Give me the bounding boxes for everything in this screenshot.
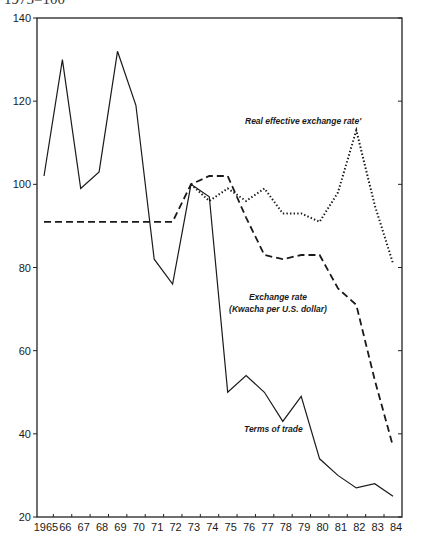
x-tick-label: 1965 bbox=[34, 521, 58, 533]
x-tick-label: 81 bbox=[335, 521, 347, 533]
x-tick-label: 74 bbox=[206, 521, 218, 533]
chart: 1975=100 20406080100120140 1965666768697… bbox=[0, 0, 421, 542]
x-tick-label: 80 bbox=[316, 521, 328, 533]
x-tick-label: 77 bbox=[261, 521, 273, 533]
x-tick-label: 82 bbox=[353, 521, 365, 533]
x-tick-label: 73 bbox=[188, 521, 200, 533]
x-tick-label: 83 bbox=[372, 521, 384, 533]
y-tick-label: 60 bbox=[19, 345, 31, 357]
annotation-label: Real effective exchange rate' bbox=[245, 116, 362, 126]
chart-caption: 1975=100 bbox=[4, 0, 65, 8]
plot-border bbox=[37, 18, 402, 517]
exchange-rate-kwacha-per-u-s-dollar-line bbox=[44, 176, 393, 446]
annotation-label: Terms of trade bbox=[244, 424, 303, 434]
plot-frame bbox=[37, 18, 402, 517]
y-tick-label: 140 bbox=[13, 12, 31, 24]
x-tick-label: 69 bbox=[114, 521, 126, 533]
y-tick-label: 80 bbox=[19, 262, 31, 274]
x-tick-label: 66 bbox=[59, 521, 71, 533]
real-effective-exchange-rate-line bbox=[191, 130, 393, 263]
x-tick-label: 78 bbox=[280, 521, 292, 533]
x-tick-label: 71 bbox=[151, 521, 163, 533]
x-tick-label: 70 bbox=[133, 521, 145, 533]
annotation-label: Exchange rate bbox=[249, 292, 307, 302]
y-tick-label: 20 bbox=[19, 511, 31, 523]
line-chart: 20406080100120140 1965666768697071727374… bbox=[0, 0, 421, 542]
y-tick-label: 120 bbox=[13, 95, 31, 107]
x-tick-label: 84 bbox=[390, 521, 402, 533]
x-tick-label: 68 bbox=[96, 521, 108, 533]
x-tick-label: 79 bbox=[298, 521, 310, 533]
y-axis: 20406080100120140 bbox=[13, 12, 402, 523]
x-tick-label: 72 bbox=[169, 521, 181, 533]
x-tick-label: 67 bbox=[78, 521, 90, 533]
annotation-label: (Kwacha per U.S. dollar) bbox=[229, 304, 327, 314]
annotations: Real effective exchange rate'Exchange ra… bbox=[229, 116, 362, 434]
y-tick-label: 100 bbox=[13, 178, 31, 190]
x-tick-label: 76 bbox=[243, 521, 255, 533]
y-tick-label: 40 bbox=[19, 428, 31, 440]
x-tick-label: 75 bbox=[225, 521, 237, 533]
